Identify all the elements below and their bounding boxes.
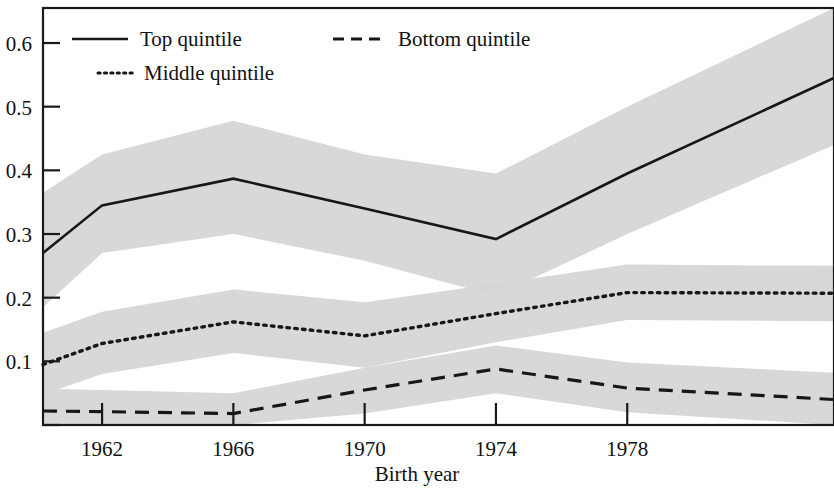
x-axis-tick-labels: 19621966197019741978: [81, 437, 648, 461]
x-tick-label: 1978: [606, 437, 648, 461]
chart-legend: Top quintile Bottom quintile Middle quin…: [72, 27, 530, 85]
y-tick-label: 0.2: [6, 287, 32, 311]
x-tick-label: 1966: [212, 437, 254, 461]
legend-label-top-quintile: Top quintile: [140, 27, 242, 51]
x-tick-label: 1962: [81, 437, 123, 461]
legend-item-top-quintile: Top quintile: [72, 27, 242, 51]
x-tick-label: 1974: [475, 437, 518, 461]
y-axis-tick-labels: 0.10.20.30.40.50.6: [6, 32, 33, 374]
x-tick-label: 1970: [344, 437, 386, 461]
x-axis-title: Birth year: [375, 462, 460, 486]
legend-label-bottom-quintile: Bottom quintile: [398, 27, 530, 51]
band-top-quintile: [43, 8, 834, 307]
quintile-line-chart: 0.10.20.30.40.50.6 19621966197019741978 …: [0, 0, 834, 488]
y-tick-label: 0.3: [6, 223, 32, 247]
y-tick-label: 0.4: [6, 159, 33, 183]
y-tick-label: 0.5: [6, 96, 32, 120]
legend-item-middle-quintile: Middle quintile: [98, 61, 274, 85]
y-tick-label: 0.6: [6, 32, 32, 56]
y-tick-label: 0.1: [6, 350, 32, 374]
chart-figure: 0.10.20.30.40.50.6 19621966197019741978 …: [0, 0, 834, 488]
legend-item-bottom-quintile: Bottom quintile: [333, 27, 530, 51]
legend-label-middle-quintile: Middle quintile: [144, 61, 274, 85]
